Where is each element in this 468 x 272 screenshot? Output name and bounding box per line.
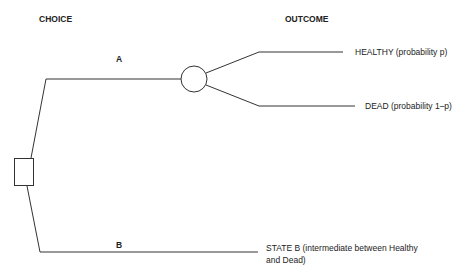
healthy-outcome-label: HEALTHY (probability p) [355,47,447,58]
decision-tree [0,0,468,272]
branch-a-label: A [116,54,122,65]
edge-to-branch-b [27,186,40,252]
edge-to-branch-a [31,79,46,158]
decision-node [15,159,34,186]
state-b-label-line1: STATE B (intermediate between Healthy [266,243,418,254]
edge-to-healthy [206,52,259,73]
outcome-header: OUTCOME [285,14,328,25]
chance-node [181,66,207,92]
dead-outcome-label: DEAD (probability 1–p) [365,101,452,112]
edge-to-dead [206,85,259,106]
branch-b-label: B [116,240,122,251]
choice-header: CHOICE [39,14,72,25]
state-b-label-line2: and Dead) [266,255,306,266]
